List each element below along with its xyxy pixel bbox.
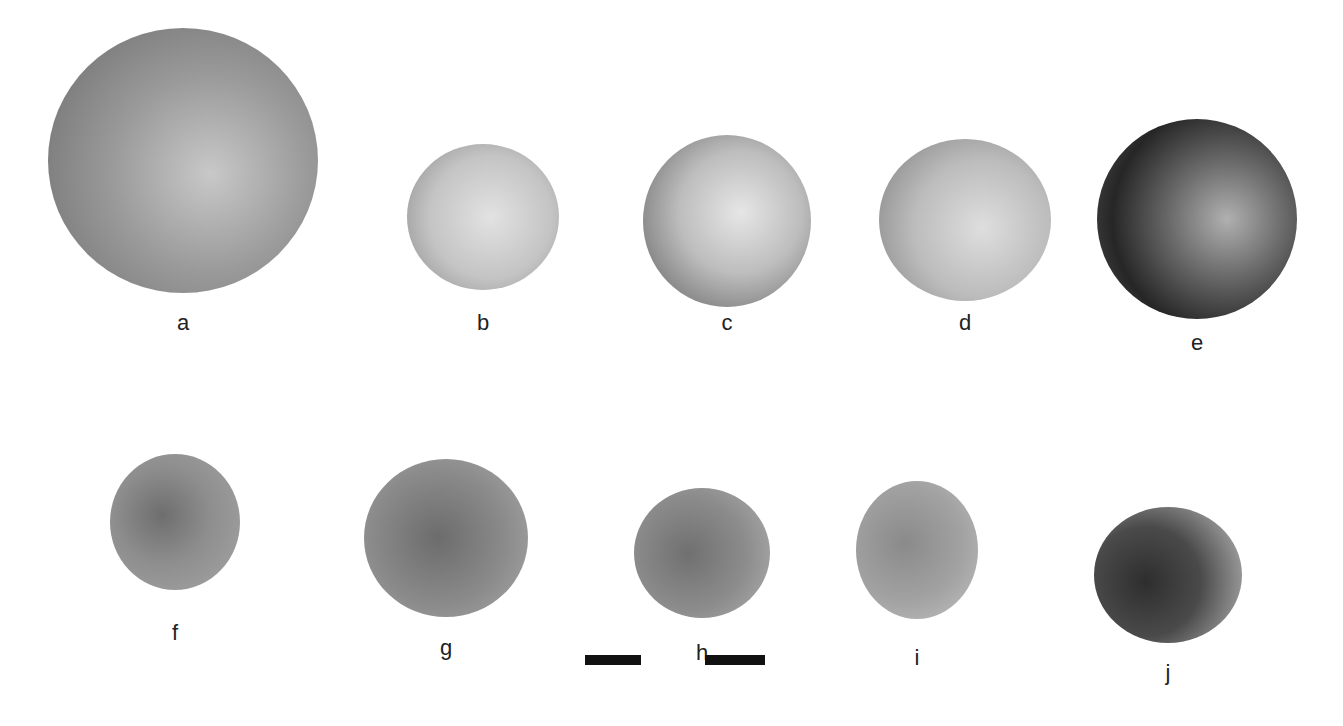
specimen-b: [407, 144, 559, 290]
specimen-j: [1094, 507, 1242, 643]
specimen-f: [110, 454, 240, 590]
specimen-d: [879, 139, 1051, 301]
specimen-i: [856, 481, 978, 619]
specimen-label: d: [945, 310, 985, 336]
specimen-label: b: [463, 310, 503, 336]
specimen-label: f: [155, 620, 195, 646]
specimen-label: e: [1177, 330, 1217, 356]
specimen-h: [634, 488, 770, 618]
specimen-label: c: [707, 310, 747, 336]
specimen-label: g: [426, 635, 466, 661]
specimen-a: [48, 28, 318, 293]
scale-bar-segment: [585, 655, 641, 665]
specimen-c: [643, 135, 811, 307]
specimen-label: j: [1148, 660, 1188, 686]
scale-bar-segment: [705, 655, 765, 665]
specimen-g: [364, 459, 528, 617]
specimen-label: i: [897, 645, 937, 671]
specimen-label: a: [163, 310, 203, 336]
specimen-e: [1097, 119, 1297, 319]
